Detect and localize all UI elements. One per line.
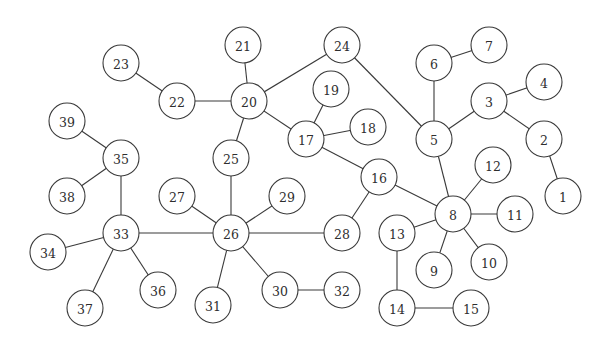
- node-label: 29: [279, 190, 295, 205]
- node-27: 27: [159, 178, 195, 214]
- node-label: 39: [59, 115, 75, 130]
- node-label: 9: [430, 264, 438, 279]
- node-label: 4: [540, 76, 548, 91]
- node-1: 1: [545, 178, 581, 214]
- node-label: 34: [40, 246, 56, 261]
- node-label: 18: [360, 121, 376, 136]
- node-label: 16: [371, 171, 387, 186]
- node-33: 33: [103, 215, 139, 251]
- node-5: 5: [416, 121, 452, 157]
- node-10: 10: [471, 244, 507, 280]
- node-32: 32: [324, 272, 360, 308]
- node-label: 5: [430, 133, 438, 148]
- node-3: 3: [471, 83, 507, 119]
- node-label: 21: [235, 39, 251, 54]
- node-label: 10: [481, 256, 497, 271]
- node-label: 14: [389, 302, 405, 317]
- node-39: 39: [49, 103, 85, 139]
- node-label: 31: [205, 299, 221, 314]
- node-label: 28: [334, 227, 350, 242]
- node-13: 13: [379, 215, 415, 251]
- node-label: 17: [298, 133, 314, 148]
- node-20: 20: [231, 83, 267, 119]
- node-15: 15: [453, 290, 489, 326]
- node-label: 36: [150, 284, 166, 299]
- node-6: 6: [416, 45, 452, 81]
- node-14: 14: [379, 290, 415, 326]
- node-4: 4: [526, 64, 562, 100]
- node-16: 16: [361, 159, 397, 195]
- node-11: 11: [497, 196, 533, 232]
- node-label: 12: [485, 159, 501, 174]
- node-label: 11: [507, 208, 523, 223]
- node-7: 7: [471, 27, 507, 63]
- node-label: 19: [323, 83, 339, 98]
- node-label: 7: [485, 39, 493, 54]
- node-30: 30: [262, 272, 298, 308]
- node-label: 3: [485, 95, 493, 110]
- node-label: 35: [113, 152, 129, 167]
- node-19: 19: [313, 71, 349, 107]
- node-label: 6: [430, 57, 438, 72]
- node-28: 28: [324, 215, 360, 251]
- node-layer: 1234567891011121314151617181920212223242…: [30, 27, 581, 326]
- node-label: 24: [334, 39, 350, 54]
- node-12: 12: [475, 147, 511, 183]
- node-31: 31: [195, 287, 231, 323]
- node-17: 17: [288, 121, 324, 157]
- node-label: 1: [559, 190, 567, 205]
- node-label: 33: [113, 227, 129, 242]
- node-label: 13: [389, 227, 405, 242]
- node-2: 2: [526, 121, 562, 157]
- node-29: 29: [269, 178, 305, 214]
- node-label: 25: [223, 152, 239, 167]
- node-22: 22: [159, 83, 195, 119]
- node-35: 35: [103, 140, 139, 176]
- node-label: 23: [113, 57, 129, 72]
- node-18: 18: [350, 109, 386, 145]
- node-21: 21: [225, 27, 261, 63]
- node-label: 22: [169, 95, 185, 110]
- node-label: 32: [334, 284, 350, 299]
- node-label: 37: [77, 302, 93, 317]
- node-9: 9: [416, 252, 452, 288]
- graph-diagram: 1234567891011121314151617181920212223242…: [0, 0, 612, 344]
- node-24: 24: [324, 27, 360, 63]
- node-23: 23: [103, 45, 139, 81]
- node-label: 2: [540, 133, 548, 148]
- node-label: 30: [272, 284, 288, 299]
- node-label: 15: [463, 302, 479, 317]
- node-37: 37: [67, 290, 103, 326]
- node-8: 8: [435, 196, 471, 232]
- node-34: 34: [30, 234, 66, 270]
- node-label: 8: [449, 208, 457, 223]
- node-label: 20: [241, 95, 257, 110]
- node-36: 36: [140, 272, 176, 308]
- node-38: 38: [49, 178, 85, 214]
- node-label: 38: [59, 190, 75, 205]
- node-25: 25: [213, 140, 249, 176]
- node-26: 26: [213, 215, 249, 251]
- node-label: 26: [223, 227, 239, 242]
- node-label: 27: [169, 190, 185, 205]
